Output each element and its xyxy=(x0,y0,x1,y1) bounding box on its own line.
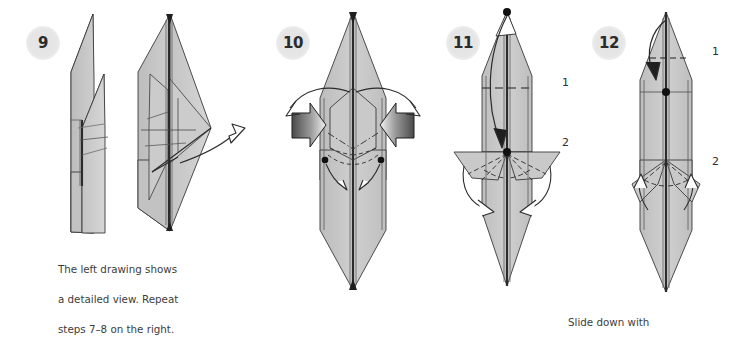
caption-line: a detailed view. Repeat xyxy=(58,292,238,307)
pivot-dot-left xyxy=(322,157,329,164)
pivot-dot-right xyxy=(378,157,385,164)
step-12-diagram xyxy=(588,0,748,338)
step-9-right-drawing xyxy=(138,14,211,231)
step-panel-10: 10 xyxy=(268,0,438,338)
step-panel-12: 12 xyxy=(588,0,748,338)
caption-line: steps 7–8 on the right. xyxy=(58,322,238,337)
step-9-caption: The left drawing shows a detailed view. … xyxy=(58,247,238,338)
step-10-diagram xyxy=(268,0,438,338)
step-11-label-1: 1 xyxy=(562,76,569,89)
step-10-model xyxy=(320,12,386,290)
step-9-left-drawing xyxy=(71,14,108,233)
step-panel-11: 11 xyxy=(438,0,588,338)
step-11-diagram xyxy=(438,0,588,338)
step-12-model xyxy=(632,12,700,292)
step-panel-9: 9 xyxy=(0,0,268,338)
origami-instruction-page: 9 xyxy=(0,0,748,338)
step-11-label-2: 2 xyxy=(562,136,569,149)
step-12-label-1: 1 xyxy=(712,45,719,58)
caption-line: The left drawing shows xyxy=(58,262,238,277)
center-dot xyxy=(662,88,670,96)
apex-dot xyxy=(503,8,511,16)
center-dot xyxy=(503,148,511,156)
step-12-label-2: 2 xyxy=(712,155,719,168)
